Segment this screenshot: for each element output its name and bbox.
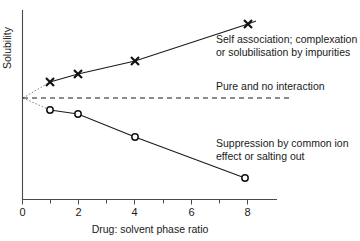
- x-axis-title: Drug: solvent phase ratio: [92, 223, 209, 235]
- x-tick-label-4: 4: [131, 206, 137, 218]
- marker-x-ratio-1: [46, 78, 54, 86]
- marker-x-ratio-2: [74, 70, 82, 78]
- annotation-pure-no-interaction-line-1: Pure and no interaction: [216, 80, 325, 92]
- marker-x-ratio-4: [131, 57, 139, 65]
- chart-figure: 0 2 4 6 8 Drug: solvent phase ratio Solu…: [0, 0, 360, 241]
- annotation-self-association-line-2: or solubilisation by impurities: [216, 46, 350, 58]
- marker-o-ratio-8: [242, 175, 248, 181]
- stub-to-lower-first-point: [23, 98, 50, 110]
- annotation-suppression: Suppression by common ion effect or salt…: [216, 137, 349, 162]
- x-tick-label-8: 8: [244, 206, 250, 218]
- x-tick-label-0: 0: [19, 206, 25, 218]
- solubility-chart: 0 2 4 6 8 Drug: solvent phase ratio Solu…: [0, 0, 360, 241]
- annotation-suppression-line-1: Suppression by common ion: [216, 137, 349, 149]
- annotation-self-association: Self association; complexation or solubi…: [216, 33, 357, 58]
- marker-o-ratio-4: [132, 134, 138, 140]
- x-tick-label-2: 2: [75, 206, 81, 218]
- stub-to-upper-first-point: [23, 82, 50, 98]
- marker-o-ratio-2: [75, 111, 81, 117]
- x-axis-ticks: [23, 200, 248, 205]
- x-axis-tick-labels: 0 2 4 6 8: [19, 206, 250, 218]
- x-tick-label-6: 6: [188, 206, 194, 218]
- marker-o-ratio-1: [47, 107, 53, 113]
- annotation-self-association-line-1: Self association; complexation: [216, 33, 357, 45]
- annotation-pure-no-interaction: Pure and no interaction: [216, 80, 325, 92]
- y-axis-title: Solubility: [1, 26, 13, 69]
- marker-x-ratio-8: [244, 20, 252, 28]
- origin-fan-stubs: [23, 82, 50, 110]
- annotation-suppression-line-2: effect or salting out: [216, 150, 305, 162]
